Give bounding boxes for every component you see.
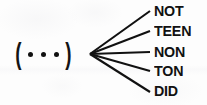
branch-line-3 [90, 52, 150, 54]
branch-line-1 [90, 11, 150, 54]
output-word-ton: TON [154, 63, 183, 78]
branch-line-5 [90, 54, 150, 92]
output-word-non: NON [154, 44, 185, 59]
derivation-fan-diagram: ( ) NOT TEEN NON TON DID [0, 0, 207, 105]
output-word-teen: TEEN [154, 23, 191, 38]
branch-line-2 [90, 31, 150, 54]
branch-line-4 [90, 54, 150, 71]
output-word-list: NOT TEEN NON TON DID [154, 0, 207, 105]
output-word-did: DID [154, 83, 178, 98]
output-word-not: NOT [154, 3, 184, 18]
